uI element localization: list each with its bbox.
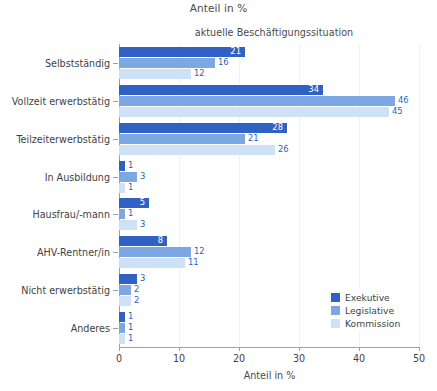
y-axis-label: Selbstständig [0,57,110,68]
bar-value-label: 16 [215,57,229,68]
bar-value-label: 1 [125,182,133,193]
bar-value-label: 45 [389,106,403,117]
bar-value-label: 21 [230,46,245,57]
bar [119,123,287,133]
bar-value-label: 28 [272,122,287,133]
bar [119,274,137,284]
chart-legend: ExekutiveLegislativeKommission [327,288,404,333]
bar-row: 3 [119,220,419,230]
bar [119,47,245,57]
y-axis-tick-mark [113,328,118,329]
legend-label: Legislative [345,305,394,316]
bar-group: 211612 [119,47,419,79]
bar-value-label: 1 [125,333,133,344]
bar-value-label: 46 [395,95,409,106]
legend-swatch-icon [331,306,340,315]
bar [119,296,131,306]
bar-value-label: 3 [137,171,145,182]
x-axis-tick-mark [419,347,420,351]
bar [119,285,131,295]
legend-item[interactable]: Exekutive [331,291,400,304]
bar-value-label: 26 [275,144,289,155]
bar [119,107,389,117]
x-axis-tick-mark [299,347,300,351]
x-axis-tick-mark [119,347,120,351]
bar-value-label: 8 [158,235,167,246]
bar-group: 344645 [119,85,419,117]
x-axis-tick-mark [359,347,360,351]
bar-row: 34 [119,85,419,95]
x-axis-tick-label: 30 [293,353,305,364]
y-axis-label: Hausfrau/-mann [0,209,110,220]
bar-chart: Anteil in % aktuelle Beschäftigungssitua… [0,0,437,391]
bar [119,172,137,182]
bar-row: 45 [119,107,419,117]
bar [119,247,191,257]
y-axis-label: Nicht erwerbstätig [0,285,110,296]
x-axis-tick-label: 10 [173,353,185,364]
y-axis-tick-mark [113,252,118,253]
y-axis-tick-mark [113,214,118,215]
y-axis-label: Vollzeit erwerbstätig [0,95,110,106]
bar-row: 1 [119,161,419,171]
bar-group: 131 [119,161,419,193]
bar-row: 5 [119,198,419,208]
bar-row: 26 [119,145,419,155]
bar-group: 282126 [119,123,419,155]
x-axis-tick-label: 40 [353,353,365,364]
legend-label: Exekutive [345,292,390,303]
bar-value-label: 34 [308,84,323,95]
y-axis-tick-mark [113,290,118,291]
bar-value-label: 2 [131,295,139,306]
y-axis-tick-mark [113,63,118,64]
y-axis-tick-mark [113,139,118,140]
bar-group: 513 [119,198,419,230]
bar-value-label: 1 [125,311,133,322]
bar-value-label: 1 [125,322,133,333]
legend-label: Kommission [345,318,400,329]
bar [119,145,275,155]
x-axis-tick-label: 20 [233,353,245,364]
bar-value-label: 5 [140,197,149,208]
x-axis-tick-label: 0 [116,353,122,364]
bar [119,58,215,68]
bar-row: 12 [119,247,419,257]
bar-row: 12 [119,69,419,79]
y-axis-tick-mark [113,177,118,178]
legend-swatch-icon [331,319,340,328]
bar-row: 16 [119,58,419,68]
x-axis-line [119,347,420,348]
bar-row: 8 [119,236,419,246]
bar-row: 1 [119,334,419,344]
y-axis-label: AHV-Rentner/in [0,247,110,258]
bar-group: 81211 [119,236,419,268]
bar [119,85,323,95]
bar-value-label: 11 [185,257,199,268]
bar-value-label: 3 [137,219,145,230]
y-axis-tick-mark [113,101,118,102]
bar-row: 21 [119,134,419,144]
x-axis-tick-mark [239,347,240,351]
bar-row: 21 [119,47,419,57]
y-axis-label: Teilzeiterwerbstätig [0,133,110,144]
x-axis-tick-mark [179,347,180,351]
legend-item[interactable]: Kommission [331,317,400,330]
legend-item[interactable]: Legislative [331,304,400,317]
gridline [419,44,420,347]
bar-row: 28 [119,123,419,133]
bar-row: 46 [119,96,419,106]
bar-value-label: 2 [131,284,139,295]
bar-row: 11 [119,258,419,268]
bar-value-label: 12 [191,246,205,257]
bar [119,69,191,79]
bar [119,96,395,106]
bar-value-label: 12 [191,68,205,79]
bar-row: 3 [119,274,419,284]
bar-row: 3 [119,172,419,182]
page-header-title: Anteil in % [0,2,437,14]
bar-value-label: 1 [125,160,133,171]
y-axis-label: In Ausbildung [0,171,110,182]
bar [119,258,185,268]
chart-title: aktuelle Beschäftigungssituation [118,27,430,38]
bar [119,134,245,144]
